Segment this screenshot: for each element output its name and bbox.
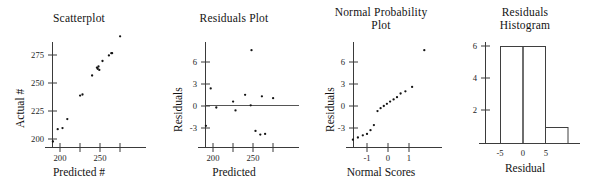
normal-probability-points <box>352 49 426 141</box>
svg-text:6: 6 <box>193 57 198 67</box>
svg-text:225: 225 <box>31 106 44 116</box>
residuals-plot-points <box>205 49 275 136</box>
svg-text:275: 275 <box>31 50 44 60</box>
svg-text:0: 0 <box>521 148 525 158</box>
residuals-plot-y-ticks: 6 3 0 -3 <box>190 57 210 133</box>
svg-text:2: 2 <box>473 105 477 115</box>
svg-text:-3: -3 <box>338 123 345 133</box>
svg-text:200: 200 <box>54 153 67 163</box>
svg-text:250: 250 <box>31 78 44 88</box>
scatterplot-canvas: 275 250 225 200 200 250 <box>0 0 158 185</box>
residuals-plot-x-ticks: 200 250 <box>207 143 273 163</box>
panel-residuals-plot: Residuals Plot Residuals Predicted 6 3 0… <box>158 0 310 185</box>
svg-text:4: 4 <box>473 73 478 83</box>
scatterplot-x-ticks: 200 250 <box>54 143 120 163</box>
normal-probability-x-ticks: -1 0 1 <box>363 143 411 163</box>
svg-text:5: 5 <box>544 148 548 158</box>
svg-text:200: 200 <box>31 134 44 144</box>
normal-probability-plot-canvas: 6 3 0 -3 -1 0 1 <box>310 0 452 185</box>
svg-text:250: 250 <box>247 153 260 163</box>
residuals-histogram-y-ticks: 6 4 2 <box>473 41 490 115</box>
panel-residuals-histogram: Residuals Histogram Residual 6 4 2 -5 0 … <box>452 0 598 185</box>
svg-text:1: 1 <box>407 153 411 163</box>
svg-text:3: 3 <box>193 79 197 89</box>
svg-text:3: 3 <box>341 79 345 89</box>
residuals-plot-canvas: 6 3 0 -3 200 250 <box>158 0 310 185</box>
svg-text:6: 6 <box>341 57 346 67</box>
residuals-histogram-x-ticks: -5 0 5 <box>496 148 548 158</box>
normal-probability-y-ticks: 6 3 0 -3 <box>338 57 358 133</box>
svg-text:200: 200 <box>207 153 220 163</box>
figure-root: Scatterplot Actual # Predicted # 275 250… <box>0 0 598 185</box>
svg-text:-5: -5 <box>496 148 503 158</box>
svg-text:-1: -1 <box>363 153 370 163</box>
svg-text:-3: -3 <box>190 123 197 133</box>
scatterplot-y-ticks: 275 250 225 200 <box>31 50 57 144</box>
panel-normal-probability-plot: Normal Probability Plot Residuals Normal… <box>310 0 452 185</box>
svg-text:0: 0 <box>386 153 390 163</box>
residuals-histogram-canvas: 6 4 2 -5 0 5 <box>452 0 598 185</box>
svg-text:250: 250 <box>94 153 107 163</box>
svg-text:0: 0 <box>341 101 345 111</box>
svg-text:0: 0 <box>193 101 197 111</box>
scatterplot-points <box>52 35 122 143</box>
residuals-histogram-bars <box>501 47 569 144</box>
panel-scatterplot: Scatterplot Actual # Predicted # 275 250… <box>0 0 158 185</box>
svg-text:6: 6 <box>473 41 478 51</box>
